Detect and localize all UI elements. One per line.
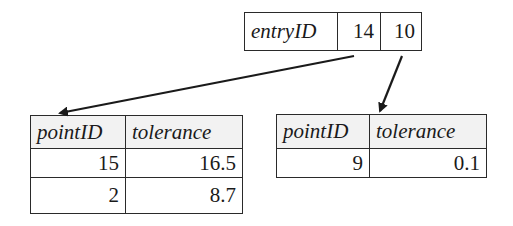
pointer-arrows	[0, 0, 513, 226]
arrow-left-icon	[60, 56, 354, 113]
arrow-right-icon	[380, 56, 402, 111]
